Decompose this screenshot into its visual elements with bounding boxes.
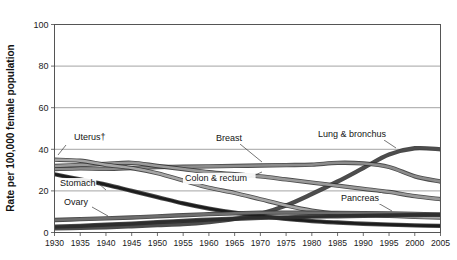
series-label-pancreas: Pancreas xyxy=(341,193,380,203)
x-tick-label-1980: 1980 xyxy=(302,238,321,248)
y-tick-label-80: 80 xyxy=(38,61,48,71)
x-tick-label-1970: 1970 xyxy=(251,238,270,248)
x-tick-label-1950: 1950 xyxy=(148,238,167,248)
x-tick-label-1960: 1960 xyxy=(199,238,218,248)
series-label-ovary: Ovary xyxy=(64,197,89,207)
x-tick-label-1975: 1975 xyxy=(277,238,296,248)
x-tick-label-1990: 1990 xyxy=(354,238,373,248)
y-axis-title: Rate per 100,000 female population xyxy=(5,44,16,211)
x-tick-label-1940: 1940 xyxy=(96,238,115,248)
x-tick-label-2000: 2000 xyxy=(405,238,424,248)
y-tick-label-60: 60 xyxy=(38,103,48,113)
y-tick-label-40: 40 xyxy=(38,145,48,155)
x-tick-label-1995: 1995 xyxy=(379,238,398,248)
y-tick-label-100: 100 xyxy=(33,20,48,30)
series-label-colon-rectum: Colon & rectum xyxy=(185,173,247,183)
x-tick-label-1955: 1955 xyxy=(174,238,193,248)
x-tick-label-1985: 1985 xyxy=(328,238,347,248)
x-tick-label-2005: 2005 xyxy=(431,238,450,248)
series-label-breast: Breast xyxy=(216,133,243,143)
y-tick-label-0: 0 xyxy=(43,228,48,238)
cancer-death-rate-line-chart: 100806040200 193019351940194519501955196… xyxy=(0,0,457,260)
x-tick-label-1935: 1935 xyxy=(71,238,90,248)
series-label-uterus: Uterus† xyxy=(74,132,106,142)
x-tick-label-1930: 1930 xyxy=(45,238,64,248)
series-label-lung-bronchus: Lung & bronchus xyxy=(318,129,387,139)
series-label-stomach: Stomach xyxy=(60,178,96,188)
x-tick-label-1965: 1965 xyxy=(225,238,244,248)
y-tick-label-20: 20 xyxy=(38,186,48,196)
x-tick-label-1945: 1945 xyxy=(122,238,141,248)
chart-page: 100806040200 193019351940194519501955196… xyxy=(0,0,457,260)
